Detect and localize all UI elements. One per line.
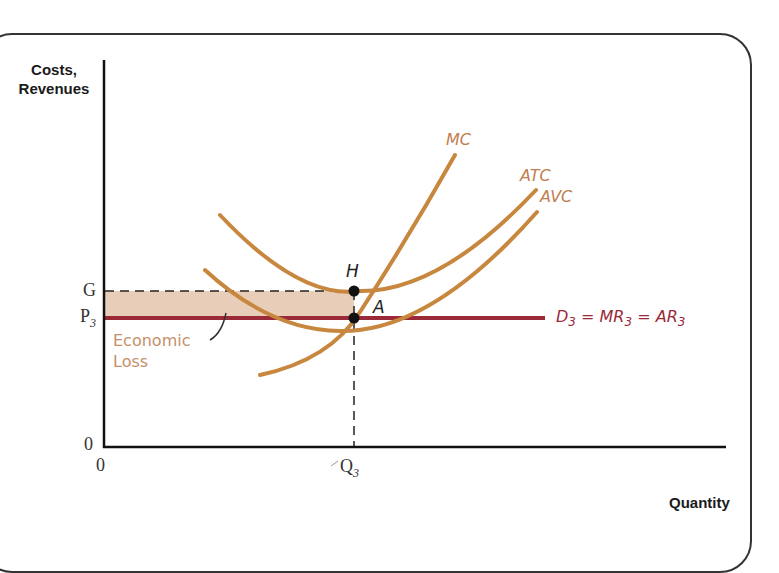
tick-q3: Q3 — [340, 456, 359, 481]
tick-g: G — [83, 280, 96, 301]
tick-q3-sub: 3 — [353, 466, 359, 480]
mc-label: MC — [446, 130, 471, 149]
point-a-label: A — [373, 297, 385, 317]
tick-x0: 0 — [96, 455, 105, 476]
x-axis-title: Quantity — [669, 493, 730, 512]
demand-d: D — [556, 307, 568, 326]
point-h — [349, 286, 360, 297]
avc-label: AVC — [540, 187, 572, 206]
demand-d-sub: 3 — [568, 315, 576, 329]
tick-p3-sub: 3 — [90, 316, 96, 330]
economic-loss-line1: Economic — [113, 330, 190, 351]
point-a — [349, 313, 360, 324]
demand-ar: = AR — [632, 307, 678, 326]
y-axis-title: Costs, Revenues — [8, 60, 100, 98]
atc-curve — [220, 190, 536, 292]
economic-loss-label: Economic Loss — [113, 330, 190, 372]
demand-ar-sub: 3 — [678, 315, 686, 329]
q3-tick-mark — [331, 461, 338, 466]
tick-q3-main: Q — [340, 456, 353, 476]
tick-p3: P3 — [80, 306, 96, 331]
demand-label: D3 = MR3 = AR3 — [556, 307, 685, 329]
demand-mr-sub: 3 — [624, 315, 632, 329]
economic-loss-area — [105, 291, 354, 318]
point-h-label: H — [346, 261, 359, 281]
demand-mr: = MR — [576, 307, 625, 326]
economic-loss-line2: Loss — [113, 351, 190, 372]
tick-y0: 0 — [84, 434, 93, 455]
y-axis-title-line1: Costs, — [8, 60, 100, 79]
y-axis-title-line2: Revenues — [8, 79, 100, 98]
tick-p3-main: P — [80, 306, 90, 326]
atc-label: ATC — [520, 166, 551, 185]
